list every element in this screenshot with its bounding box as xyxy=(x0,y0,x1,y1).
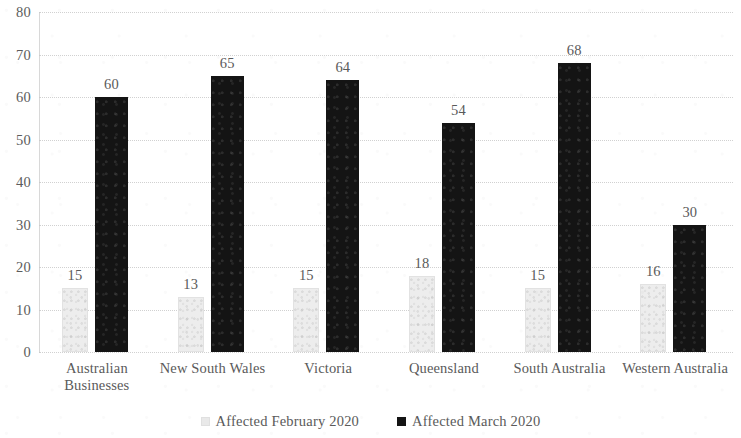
x-axis-category-label: New South Wales xyxy=(155,360,271,394)
y-axis-tick-label: 0 xyxy=(0,344,31,361)
category-label-line: Victoria xyxy=(270,360,386,377)
category-label-line: New South Wales xyxy=(155,360,271,377)
y-axis-tick-label: 70 xyxy=(0,46,31,63)
bar-value-label: 15 xyxy=(525,267,551,284)
bar-march[interactable] xyxy=(673,225,706,353)
bar-value-label: 68 xyxy=(558,42,591,59)
legend-swatch-icon xyxy=(201,417,210,426)
y-axis-tick-label: 10 xyxy=(0,301,31,318)
chart-legend: Affected February 2020Affected March 202… xyxy=(0,413,741,430)
y-axis-tick-label: 20 xyxy=(0,259,31,276)
legend-label: Affected February 2020 xyxy=(216,413,359,430)
bar-value-label: 64 xyxy=(326,59,359,76)
bar-march[interactable] xyxy=(558,63,591,352)
x-axis-category-label: South Australia xyxy=(502,360,618,394)
bar-value-label: 15 xyxy=(293,267,319,284)
bar-february[interactable] xyxy=(525,288,551,352)
category-label-line: Businesses xyxy=(39,377,155,394)
y-axis-tick-label: 60 xyxy=(0,89,31,106)
bar-group: 1365 xyxy=(155,12,271,352)
bar-group: 1564 xyxy=(270,12,386,352)
bar-value-label: 15 xyxy=(62,267,88,284)
x-axis-category-label: Queensland xyxy=(386,360,502,394)
bar-value-label: 18 xyxy=(409,255,435,272)
bar-value-label: 30 xyxy=(673,204,706,221)
bar-chart: 01020304050607080 1560136515641854156816… xyxy=(0,0,741,438)
legend-item[interactable]: Affected February 2020 xyxy=(201,413,359,430)
bar-value-label: 60 xyxy=(95,76,128,93)
bar-value-label: 13 xyxy=(178,276,204,293)
bar-february[interactable] xyxy=(293,288,319,352)
bar-value-label: 16 xyxy=(640,263,666,280)
bar-value-label: 65 xyxy=(211,55,244,72)
bar-march[interactable] xyxy=(211,76,244,352)
y-axis-tick-label: 50 xyxy=(0,131,31,148)
category-label-line: South Australia xyxy=(502,360,618,377)
y-axis-tick-label: 80 xyxy=(0,4,31,21)
bar-group: 1854 xyxy=(386,12,502,352)
category-label-line: Western Australia xyxy=(617,360,733,377)
legend-item[interactable]: Affected March 2020 xyxy=(397,413,540,430)
x-axis-category-label: Western Australia xyxy=(617,360,733,394)
legend-label: Affected March 2020 xyxy=(412,413,540,430)
x-axis-category-labels: AustralianBusinessesNew South WalesVicto… xyxy=(39,360,733,394)
y-axis-tick-label: 40 xyxy=(0,174,31,191)
y-axis-tick-label: 30 xyxy=(0,216,31,233)
bar-march[interactable] xyxy=(95,97,128,352)
bar-february[interactable] xyxy=(62,288,88,352)
x-axis-category-label: AustralianBusinesses xyxy=(39,360,155,394)
category-label-line: Queensland xyxy=(386,360,502,377)
bar-february[interactable] xyxy=(640,284,666,352)
bar-group: 1568 xyxy=(502,12,618,352)
bar-group: 1630 xyxy=(617,12,733,352)
bar-march[interactable] xyxy=(326,80,359,352)
bar-february[interactable] xyxy=(178,297,204,352)
x-axis-category-label: Victoria xyxy=(270,360,386,394)
category-label-line: Australian xyxy=(39,360,155,377)
bar-group: 1560 xyxy=(39,12,155,352)
bar-groups: 156013651564185415681630 xyxy=(39,12,733,352)
bar-march[interactable] xyxy=(442,123,475,353)
legend-swatch-icon xyxy=(397,417,406,426)
bar-value-label: 54 xyxy=(442,102,475,119)
bar-february[interactable] xyxy=(409,276,435,353)
